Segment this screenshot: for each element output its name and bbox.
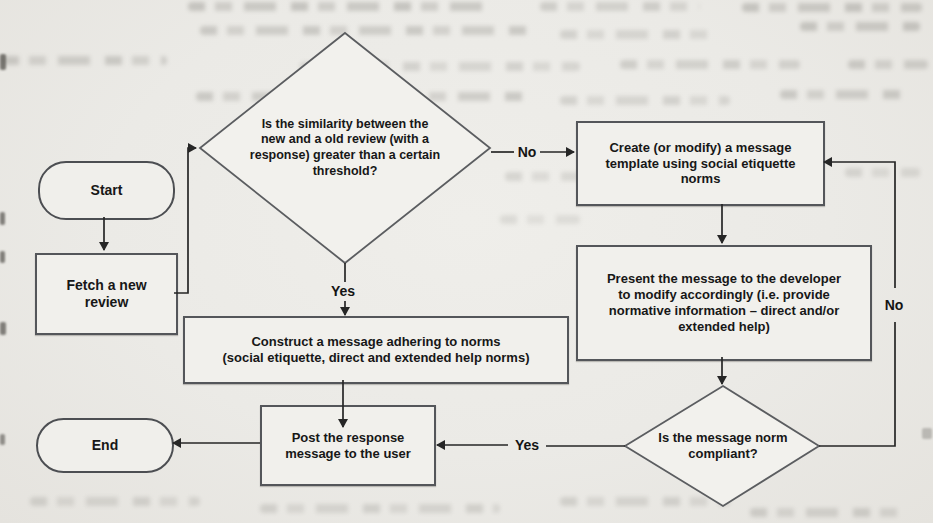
scan-smudge [845, 168, 920, 177]
scan-smudge [200, 26, 530, 35]
scan-edge-mark [0, 54, 6, 70]
flowchart-node-end: End [36, 418, 174, 473]
scan-smudge [560, 30, 710, 39]
scan-smudge [500, 215, 580, 224]
scan-smudge [560, 497, 730, 506]
scan-edge-mark [922, 428, 932, 439]
scan-smudge [848, 60, 928, 69]
scan-smudge [188, 2, 488, 11]
edge-label-no-norm: No [876, 298, 912, 312]
flowchart-node-similarity-check: Is the similarity between the new and a … [230, 96, 460, 200]
scan-edge-mark [0, 212, 5, 225]
edge-label-yes-similarity: Yes [325, 284, 361, 298]
scan-smudge [300, 62, 580, 71]
scan-edge-mark [0, 434, 5, 445]
scan-smudge [620, 60, 800, 69]
scan-smudge [2, 56, 167, 65]
scan-smudge [780, 90, 910, 99]
flowchart-node-create-template: Create (or modify) a message template us… [576, 121, 825, 206]
scan-smudge [30, 497, 200, 506]
scan-smudge [750, 508, 900, 517]
scan-edge-mark [0, 251, 5, 263]
scan-smudge [742, 3, 922, 12]
flowchart-node-fetch-review: Fetch a new review [35, 253, 178, 335]
scan-smudge [540, 2, 700, 11]
flowchart-node-start: Start [38, 161, 175, 220]
scan-smudge [560, 96, 730, 105]
scanned-page: Start Fetch a new review Create (or modi… [0, 0, 933, 523]
edge-label-no-similarity: No [509, 145, 545, 159]
scan-smudge [260, 504, 500, 513]
scan-smudge [800, 22, 920, 31]
flowchart-node-present-message: Present the message to the developer to … [576, 245, 872, 361]
edge-label-yes-norm: Yes [509, 438, 545, 452]
scan-edge-mark [0, 322, 6, 335]
flowchart-node-construct-message: Construct a message adhering to norms (s… [183, 316, 569, 384]
flowchart-node-post-response: Post the response message to the user [260, 405, 436, 486]
flowchart-node-norm-check: Is the message norm compliant? [640, 416, 806, 476]
